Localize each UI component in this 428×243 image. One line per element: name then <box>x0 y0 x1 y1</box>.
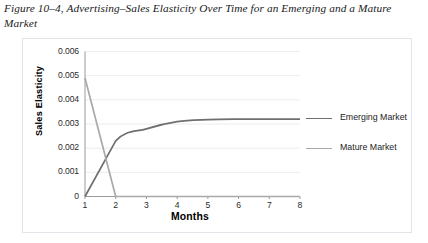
y-axis-tick-label: 0.006 <box>43 46 79 56</box>
y-axis-tick-label: 0.001 <box>43 166 79 176</box>
legend-swatch <box>306 148 332 149</box>
y-axis-tick-label: 0.003 <box>43 118 79 128</box>
y-axis-tick-label: 0.005 <box>43 70 79 80</box>
x-axis-tick-label: 7 <box>261 200 277 210</box>
x-axis-tick-label: 3 <box>138 200 154 210</box>
series-line-mature-market <box>85 78 300 196</box>
x-axis-tick-label: 4 <box>169 200 185 210</box>
series-line-emerging-market <box>85 119 300 196</box>
x-axis-tick-label: 1 <box>77 200 93 210</box>
legend-swatch <box>306 118 332 119</box>
x-axis-tick-label: 6 <box>231 200 247 210</box>
legend-label: Mature Market <box>340 142 412 153</box>
y-axis-tick-label: 0.004 <box>43 94 79 104</box>
legend-label: Emerging Market <box>340 112 412 123</box>
x-axis-tick-label: 5 <box>200 200 216 210</box>
y-axis-tick-label: 0 <box>43 191 79 201</box>
x-axis-tick-label: 8 <box>292 200 308 210</box>
x-axis-title: Months <box>120 211 260 222</box>
y-axis-tick-label: 0.002 <box>43 142 79 152</box>
x-axis-tick-label: 2 <box>108 200 124 210</box>
